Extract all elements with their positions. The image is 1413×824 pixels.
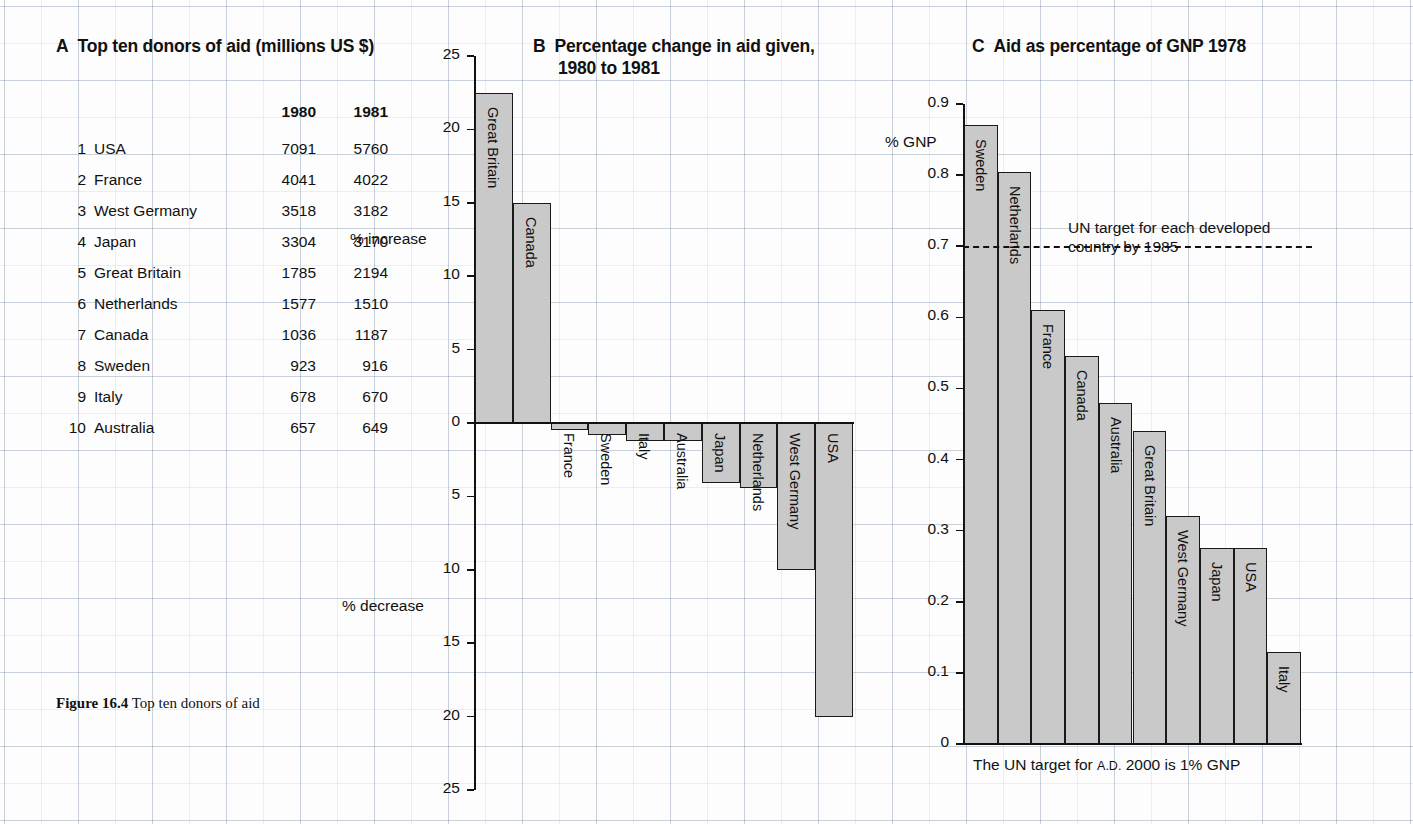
cell-1981: 3182 [316,196,388,227]
un-target-note: UN target for each developedcountry by 1… [1068,219,1270,257]
bar-label-italy: Italy [1276,666,1292,693]
y-axis-tick-label: 20 [416,118,460,136]
panel-a-title-text: Top ten donors of aid (millions US $) [77,36,374,56]
bar-label-great-britain: Great Britain [1142,445,1158,526]
zero-baseline [474,422,854,424]
y-axis-tick [956,459,963,461]
cell-country: Sweden [94,351,244,382]
table-row: 3West Germany35183182 [60,196,388,227]
bar-france[interactable] [1031,310,1065,744]
y-axis-tick [467,349,474,351]
y-axis-tick [467,642,474,644]
y-axis-tick-label: 15 [416,192,460,210]
bar-label-west-germany: West Germany [1175,530,1191,626]
bar-label-australia: Australia [674,433,690,489]
bar-label-canada: Canada [1074,370,1090,421]
cell-country: Canada [94,320,244,351]
y-axis-tick [467,55,474,57]
cell-rank: 2 [60,165,94,196]
cell-rank: 7 [60,320,94,351]
y-axis-tick [467,716,474,718]
bar-usa[interactable] [815,423,853,717]
footnote-pre: The UN target for [973,756,1097,773]
table-row: 1USA70915760 [60,134,388,165]
panel-b-letter: B [533,36,545,56]
y-axis-tick-label: 25 [416,45,460,63]
panel-c-letter: C [972,36,984,56]
y-axis-tick-label: 0.3 [900,520,949,538]
y-axis-tick [467,789,474,791]
y-axis-tick-label: 0.4 [900,449,949,467]
y-axis-tick-label: 0 [416,412,460,430]
percent-increase-label: % increase [350,230,427,248]
bar-label-west-germany: West Germany [787,433,803,529]
cell-1980: 923 [244,351,316,382]
figure-caption-label: Figure 16.4 [56,695,128,711]
y-axis-tick-label: 5 [416,485,460,503]
y-axis-tick-label: 0.5 [900,377,949,395]
y-axis-tick [467,202,474,204]
bar-label-france: France [1040,324,1056,369]
table-row: 5Great Britain17852194 [60,258,388,289]
bar-france[interactable] [551,423,589,430]
y-axis-tick [956,174,963,176]
y-axis-tick-label: 0.2 [900,591,949,609]
cell-1981: 4022 [316,165,388,196]
bar-label-australia: Australia [1108,417,1124,473]
cell-1981: 5760 [316,134,388,165]
table-row: 7Canada10361187 [60,320,388,351]
footnote-ad: A.D. [1097,759,1121,773]
bar-label-italy: Italy [636,433,652,460]
cell-country: Japan [94,227,244,258]
column-header: 1980 [244,96,316,134]
y-axis-tick [467,496,474,498]
panel-a-title: ATop ten donors of aid (millions US $) [56,36,374,58]
cell-1981: 916 [316,351,388,382]
cell-rank: 10 [60,413,94,444]
y-axis-tick-label: 0.1 [900,662,949,680]
cell-1981: 1510 [316,289,388,320]
bar-sweden[interactable] [964,125,998,744]
y-axis-tick [956,530,963,532]
y-axis-tick-label: 5 [416,339,460,357]
cell-1981: 670 [316,382,388,413]
table-row: 9Italy678670 [60,382,388,413]
cell-1980: 7091 [244,134,316,165]
cell-1981: 2194 [316,258,388,289]
y-axis-tick-label: 25 [416,779,460,797]
panel-b-title: BPercentage change in aid given, 1980 to… [533,36,863,80]
y-axis-tick [956,672,963,674]
y-axis-tick [467,129,474,131]
y-axis-tick [467,569,474,571]
bar-label-netherlands: Netherlands [1007,186,1023,264]
cell-1980: 678 [244,382,316,413]
x-axis-baseline [963,743,1302,745]
y-axis-tick-label: 10 [416,265,460,283]
cell-1980: 1785 [244,258,316,289]
y-axis-tick-label: 20 [416,706,460,724]
figure-caption-text: Top ten donors of aid [132,695,260,711]
cell-rank: 4 [60,227,94,258]
cell-rank: 9 [60,382,94,413]
cell-1980: 4041 [244,165,316,196]
y-axis-tick-label: 0.9 [900,93,949,111]
panel-b-title-line1: Percentage change in aid given, [554,36,814,56]
panel-b-title-line2: 1980 to 1981 [558,58,863,80]
percent-decrease-label: % decrease [342,597,424,615]
un-target-note-line2: country by 1985 [1068,238,1270,257]
cell-1980: 1577 [244,289,316,320]
table-row: 6Netherlands15771510 [60,289,388,320]
y-axis-tick [956,103,963,105]
bar-label-netherlands: Netherlands [750,433,766,511]
y-axis-tick [956,743,963,745]
cell-rank: 8 [60,351,94,382]
cell-country: West Germany [94,196,244,227]
figure-caption: Figure 16.4 Top ten donors of aid [56,694,296,714]
y-axis-tick-label: 0 [900,733,949,751]
y-axis-tick-label: 15 [416,632,460,650]
y-axis-tick [467,275,474,277]
y-axis-tick [467,422,474,424]
panel-c-title: CAid as percentage of GNP 1978 [972,36,1246,58]
bar-label-sweden: Sweden [598,433,614,485]
y-axis-tick [956,317,963,319]
